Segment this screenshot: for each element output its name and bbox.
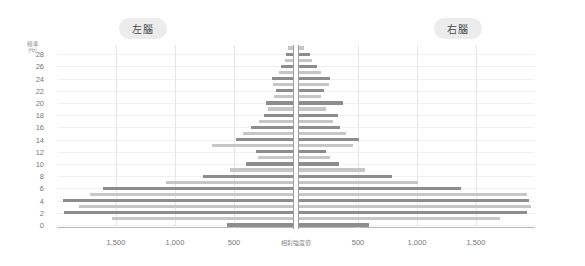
x-axis-tick-left-1000: 1,000	[166, 238, 185, 247]
y-axis-tick-14: 14	[28, 135, 44, 144]
bar-右腦-0	[299, 223, 369, 226]
x-axis-tick-right-1500: 1,500	[467, 238, 486, 247]
bar-左腦-27	[285, 59, 293, 62]
bar-左腦-18	[264, 114, 294, 117]
bar-右腦-10	[299, 162, 339, 165]
bar-右腦-3	[299, 205, 531, 208]
y-axis-tick-28: 28	[28, 50, 44, 59]
bar-左腦-17	[259, 120, 293, 123]
bar-右腦-22	[299, 89, 324, 92]
y-axis-tick-6: 6	[28, 184, 44, 193]
bar-左腦-2	[64, 211, 293, 214]
y-axis-tick-18: 18	[28, 111, 44, 120]
x-axis-tick-left-1500: 1,500	[107, 238, 126, 247]
bar-左腦-19	[268, 107, 293, 110]
y-axis-tick-16: 16	[28, 123, 44, 132]
bar-左腦-4	[63, 199, 293, 202]
bar-右腦-11	[299, 156, 330, 159]
y-axis-tick-26: 26	[28, 62, 44, 71]
right-panel-value-axis	[298, 45, 299, 229]
bar-左腦-23	[273, 83, 293, 86]
panel-title-left-brain: 左腦	[119, 18, 167, 39]
y-axis-tick-0: 0	[28, 220, 44, 229]
bar-左腦-21	[274, 95, 293, 98]
bar-左腦-12	[256, 150, 293, 153]
left-brain-panel	[57, 45, 293, 228]
y-axis-tick-22: 22	[28, 86, 44, 95]
bar-左腦-28	[286, 53, 293, 56]
brain-intensity-chart: 左腦 右腦 頻率 (Hz) 02468101214161820222426280…	[0, 0, 585, 266]
bar-右腦-17	[299, 120, 333, 123]
bar-左腦-13	[212, 144, 293, 147]
bar-右腦-9	[299, 168, 365, 171]
y-axis-tick-24: 24	[28, 74, 44, 83]
bar-右腦-19	[299, 107, 326, 110]
bar-左腦-5	[90, 193, 293, 196]
bar-右腦-14	[299, 138, 359, 141]
bar-左腦-20	[266, 101, 293, 104]
bar-右腦-23	[299, 83, 329, 86]
bar-右腦-28	[299, 53, 310, 56]
y-axis-tick-2: 2	[28, 208, 44, 217]
bar-左腦-24	[272, 77, 293, 80]
bar-右腦-26	[299, 65, 317, 68]
y-axis-tick-10: 10	[28, 159, 44, 168]
x-axis-title: 相對強度值	[281, 238, 311, 247]
y-axis-tick-4: 4	[28, 196, 44, 205]
y-axis-tick-12: 12	[28, 147, 44, 156]
bar-左腦-11	[258, 156, 293, 159]
bar-左腦-7	[166, 181, 293, 184]
bar-左腦-6	[103, 187, 293, 190]
bar-左腦-25	[279, 71, 293, 74]
panel-title-right-brain: 右腦	[434, 18, 482, 39]
bar-右腦-13	[299, 144, 353, 147]
bar-右腦-20	[299, 101, 343, 104]
bar-右腦-27	[299, 59, 312, 62]
right-brain-panel	[299, 45, 535, 228]
bar-右腦-8	[299, 175, 392, 178]
x-axis-tick-right-500: 500	[352, 238, 365, 247]
bar-左腦-3	[79, 205, 293, 208]
bar-右腦-24	[299, 77, 330, 80]
bar-右腦-12	[299, 150, 326, 153]
bar-右腦-18	[299, 114, 338, 117]
bar-右腦-25	[299, 71, 321, 74]
x-axis-tick-right-1000: 1,000	[408, 238, 427, 247]
bar-右腦-5	[299, 193, 527, 196]
bar-左腦-26	[281, 65, 293, 68]
bar-右腦-29	[299, 46, 304, 49]
y-axis-tick-column: 02468101214161820222426280	[24, 0, 44, 266]
bar-左腦-9	[230, 168, 293, 171]
bar-右腦-7	[299, 181, 418, 184]
bar-左腦-14	[236, 138, 293, 141]
bar-左腦-0	[227, 223, 293, 226]
x-axis-tick-left-500: 500	[228, 238, 241, 247]
bar-左腦-15	[243, 132, 293, 135]
left-panel-value-axis	[293, 45, 294, 229]
y-axis-tick-8: 8	[28, 172, 44, 181]
bar-左腦-22	[276, 89, 293, 92]
bar-左腦-16	[251, 126, 293, 129]
bar-右腦-4	[299, 199, 529, 202]
bar-左腦-8	[203, 175, 293, 178]
bar-左腦-1	[112, 217, 293, 220]
bar-右腦-1	[299, 217, 500, 220]
bar-左腦-10	[246, 162, 293, 165]
bar-右腦-15	[299, 132, 346, 135]
bar-右腦-16	[299, 126, 340, 129]
bar-右腦-6	[299, 187, 461, 190]
y-axis-tick-20: 20	[28, 98, 44, 107]
bar-右腦-21	[299, 95, 321, 98]
bar-右腦-2	[299, 211, 527, 214]
